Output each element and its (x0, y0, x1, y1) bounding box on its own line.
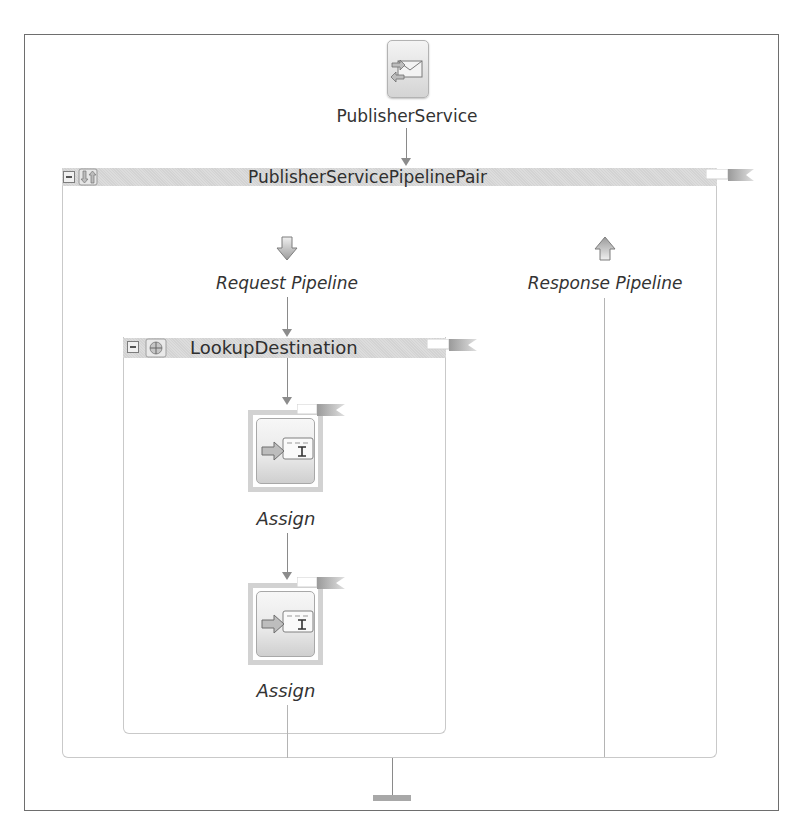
publisher-service-label: PublisherService (307, 106, 507, 126)
response-pipeline-label[interactable]: Response Pipeline (505, 273, 705, 293)
stage-flag-icon (427, 339, 477, 353)
pipeline-pair-flag-icon (706, 169, 754, 183)
assign-action-node[interactable] (248, 583, 323, 665)
pipeline-pair-title: PublisherServicePipelinePair (248, 168, 487, 186)
down-arrow-icon (276, 236, 298, 262)
action-connector-line (287, 533, 288, 573)
request-pipeline-label[interactable]: Request Pipeline (187, 273, 387, 293)
collapse-minus-icon[interactable] (127, 341, 139, 353)
envelope-service-icon (388, 41, 428, 97)
flow-end-bar (373, 795, 411, 801)
pipeline-exit-line (392, 758, 393, 796)
assign-action-node[interactable] (248, 410, 323, 492)
request-connector-arrowhead (282, 329, 292, 337)
collapse-minus-icon[interactable] (63, 171, 75, 183)
connector-arrowhead (401, 158, 411, 166)
request-connector-line (287, 297, 288, 331)
assign-action-icon (258, 420, 318, 486)
assign-action-icon (258, 593, 318, 659)
stage-icon (145, 338, 167, 358)
response-connector-line (604, 298, 605, 757)
pipeline-pair-icon (78, 168, 98, 186)
publisher-service-node[interactable] (387, 40, 429, 98)
assign-label: Assign (211, 508, 361, 529)
stage-connector-arrowhead (282, 397, 292, 405)
assign-label: Assign (211, 680, 361, 701)
up-arrow-icon (594, 236, 616, 262)
stage-exit-line (287, 705, 288, 758)
assign-flag-icon (297, 577, 345, 591)
stage-connector-line (287, 358, 288, 399)
assign-flag-icon (297, 404, 345, 418)
connector-line (406, 128, 407, 160)
stage-title: LookupDestination (190, 339, 358, 357)
action-connector-arrowhead (282, 572, 292, 580)
